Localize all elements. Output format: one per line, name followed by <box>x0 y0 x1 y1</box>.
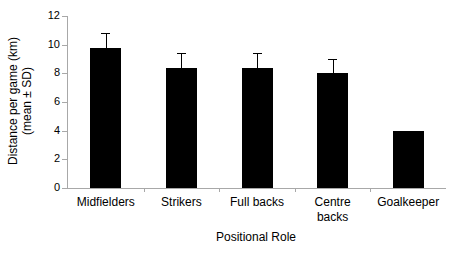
y-axis-tick <box>62 188 67 189</box>
y-axis-tick <box>62 16 67 17</box>
bar <box>317 73 348 188</box>
category-label-line: Full backs <box>219 195 295 210</box>
y-tick-label: 10 <box>22 38 60 51</box>
bar <box>242 68 273 188</box>
category-label-line: Centre <box>295 195 371 210</box>
y-axis-tick <box>62 73 67 74</box>
error-bar-cap <box>328 59 337 60</box>
y-tick-label: 2 <box>22 152 60 165</box>
y-axis-tick <box>62 159 67 160</box>
category-label-line: Goalkeeper <box>370 195 446 210</box>
error-bar-cap <box>177 53 186 54</box>
error-bar-cap <box>253 53 262 54</box>
bar-chart: Distance per game (km) (mean ± SD) 02468… <box>0 0 458 256</box>
y-tick-label: 0 <box>22 181 60 194</box>
plot-area: 024681012MidfieldersStrikersFull backsCe… <box>67 16 446 189</box>
x-axis-title: Positional Role <box>67 230 445 244</box>
error-bar-line <box>181 53 182 67</box>
error-bar-line <box>106 33 107 47</box>
x-axis-tick <box>144 188 145 192</box>
y-tick-label: 8 <box>22 66 60 79</box>
category-label: Strikers <box>144 195 220 210</box>
error-bar-line <box>333 59 334 73</box>
error-bar-line <box>257 53 258 67</box>
y-axis-title-line1: Distance per game (km) <box>6 37 20 165</box>
x-axis-tick <box>295 188 296 192</box>
y-tick-label: 6 <box>22 95 60 108</box>
bar <box>393 131 424 188</box>
y-tick-label: 4 <box>22 124 60 137</box>
x-axis-tick <box>219 188 220 192</box>
bar <box>166 68 197 188</box>
y-axis-tick <box>62 131 67 132</box>
category-label: Goalkeeper <box>370 195 446 210</box>
error-bar-cap <box>101 33 110 34</box>
category-label: Centrebacks <box>295 195 371 225</box>
bar <box>90 48 121 188</box>
category-label: Full backs <box>219 195 295 210</box>
y-axis-tick <box>62 102 67 103</box>
y-axis-tick <box>62 45 67 46</box>
category-label-line: backs <box>295 210 371 225</box>
category-label-line: Strikers <box>144 195 220 210</box>
x-axis-tick <box>370 188 371 192</box>
category-label: Midfielders <box>68 195 144 210</box>
category-label-line: Midfielders <box>68 195 144 210</box>
y-tick-label: 12 <box>22 9 60 22</box>
